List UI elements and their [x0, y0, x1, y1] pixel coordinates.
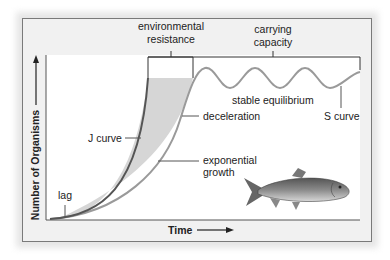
env-resistance-label-2: resistance — [147, 33, 195, 45]
lag-label: lag — [58, 189, 72, 201]
carrying-capacity-label-1: carrying — [254, 23, 292, 35]
deceleration-label: deceleration — [203, 110, 260, 122]
exponential-label-1: exponential — [203, 154, 257, 166]
exponential-label-2: growth — [203, 166, 235, 178]
stable-equilibrium-label: stable equilibrium — [232, 94, 314, 106]
s-curve-label: S curve — [324, 110, 360, 122]
y-axis-arrow — [33, 55, 39, 105]
env-resistance-label-1: environmental — [138, 20, 204, 32]
j-curve-label: J curve — [88, 132, 122, 144]
x-axis-title: Time — [168, 224, 192, 236]
carrying-capacity-label-2: capacity — [254, 36, 293, 48]
growth-diagram: environmental resistance carrying capaci… — [0, 0, 390, 260]
y-axis-title: Number of Organisms — [29, 110, 41, 220]
x-axis-arrow — [197, 227, 234, 233]
